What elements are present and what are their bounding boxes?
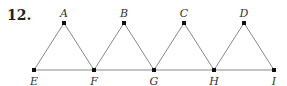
point-label-F: F — [89, 75, 98, 86]
point-A — [62, 21, 66, 25]
point-B — [122, 21, 126, 25]
point-G — [152, 68, 156, 72]
segment-AF — [64, 23, 94, 70]
point-label-C: C — [180, 7, 189, 20]
point-E — [32, 68, 36, 72]
segment-CH — [184, 23, 214, 70]
point-label-E: E — [29, 75, 38, 86]
segment-DI — [244, 23, 274, 70]
point-label-I: I — [271, 75, 277, 86]
point-label-A: A — [59, 7, 68, 20]
point-C — [182, 21, 186, 25]
segment-HD — [214, 23, 244, 70]
segment-BG — [124, 23, 154, 70]
segment-EA — [34, 23, 64, 70]
triangle-diagram: ABCDEFGHI — [0, 0, 287, 86]
point-label-B: B — [119, 7, 128, 20]
point-I — [272, 68, 276, 72]
point-F — [92, 68, 96, 72]
point-label-H: H — [208, 75, 219, 86]
segment-FB — [94, 23, 124, 70]
point-D — [242, 21, 246, 25]
segment-GC — [154, 23, 184, 70]
point-label-G: G — [150, 75, 159, 86]
point-H — [212, 68, 216, 72]
point-label-D: D — [239, 7, 249, 20]
